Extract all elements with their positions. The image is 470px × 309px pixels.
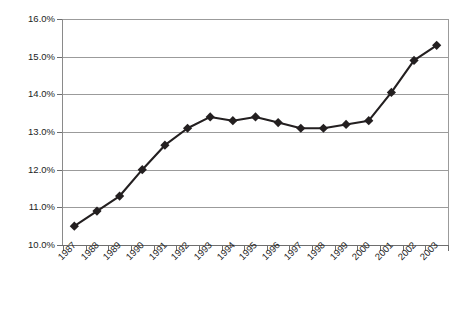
- data-point-marker: [319, 124, 328, 133]
- data-point-marker: [206, 112, 215, 121]
- data-point-marker: [274, 118, 283, 127]
- series-markers: [70, 41, 442, 231]
- data-point-marker: [251, 112, 260, 121]
- data-point-marker: [341, 120, 350, 129]
- data-series-line: [0, 0, 470, 309]
- series-polyline: [74, 45, 436, 226]
- chart-figure: 10.0%11.0%12.0%13.0%14.0%15.0%16.0% 1987…: [0, 0, 470, 309]
- data-point-marker: [228, 116, 237, 125]
- data-point-marker: [296, 124, 305, 133]
